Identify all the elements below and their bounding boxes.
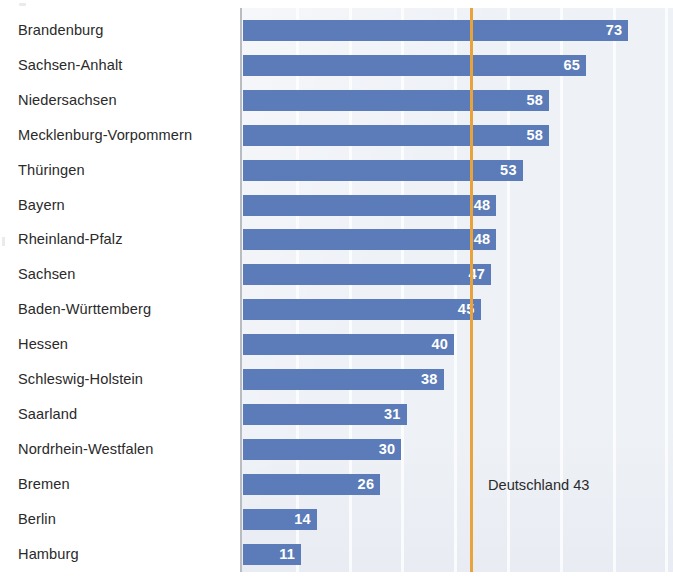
category-label: Bayern (18, 195, 65, 216)
bar-row[interactable]: 40 (240, 334, 673, 355)
bar-row[interactable]: 48 (240, 195, 673, 216)
bar[interactable] (243, 334, 454, 355)
category-label: Mecklenburg-Vorpommern (18, 125, 192, 146)
category-label: Baden-Württemberg (18, 299, 151, 320)
category-label: Niedersachsen (18, 90, 117, 111)
category-label: Bremen (18, 474, 70, 495)
bar-value-label: 58 (519, 125, 543, 146)
category-label: Berlin (18, 509, 56, 530)
bar-row[interactable]: 47 (240, 264, 673, 285)
bar[interactable] (243, 264, 491, 285)
bar[interactable] (243, 195, 496, 216)
bar[interactable] (243, 299, 481, 320)
bar[interactable] (243, 229, 496, 250)
bar-row[interactable]: 38 (240, 369, 673, 390)
category-label: Rheinland-Pfalz (18, 229, 123, 250)
plot-area: 73655858534848474540383130261411 Deutsch… (240, 8, 673, 572)
bar-value-label: 26 (350, 474, 374, 495)
bar-value-label: 73 (598, 20, 622, 41)
category-label: Hessen (18, 334, 68, 355)
bar-row[interactable]: 58 (240, 125, 673, 146)
bar-value-label: 11 (271, 544, 295, 565)
bar[interactable] (243, 55, 586, 76)
bar-value-label: 14 (287, 509, 311, 530)
scan-artifact (19, 3, 26, 6)
category-label: Hamburg (18, 544, 79, 565)
bar-value-label: 58 (519, 90, 543, 111)
bar-row[interactable]: 14 (240, 509, 673, 530)
bar-value-label: 38 (414, 369, 438, 390)
bar-value-label: 40 (424, 334, 448, 355)
category-label: Schleswig-Holstein (18, 369, 143, 390)
bar-row[interactable]: 65 (240, 55, 673, 76)
bar-row[interactable]: 26 (240, 474, 673, 495)
bar[interactable] (243, 160, 523, 181)
bar-value-label: 30 (371, 439, 395, 460)
bar[interactable] (243, 20, 628, 41)
category-label: Sachsen (18, 264, 76, 285)
reference-line-label: Deutschland 43 (488, 477, 589, 493)
bar-value-label: 47 (461, 264, 485, 285)
bar-row[interactable]: 30 (240, 439, 673, 460)
bar-row[interactable]: 48 (240, 229, 673, 250)
bar-chart: BrandenburgSachsen-AnhaltNiedersachsenMe… (0, 0, 673, 580)
category-label: Saarland (18, 404, 77, 425)
category-label: Brandenburg (18, 20, 103, 41)
bar-value-label: 31 (377, 404, 401, 425)
bar-row[interactable]: 73 (240, 20, 673, 41)
category-axis-labels: BrandenburgSachsen-AnhaltNiedersachsenMe… (0, 8, 232, 572)
value-axis-line (240, 8, 242, 572)
bar-row[interactable]: 58 (240, 90, 673, 111)
bar-row[interactable]: 45 (240, 299, 673, 320)
bar-row[interactable]: 53 (240, 160, 673, 181)
category-label: Thüringen (18, 160, 85, 181)
bar-row[interactable]: 11 (240, 544, 673, 565)
bar-row[interactable]: 31 (240, 404, 673, 425)
reference-line-deutschland (470, 8, 473, 572)
category-label: Nordrhein-Westfalen (18, 439, 153, 460)
bar-value-label: 65 (556, 55, 580, 76)
bar[interactable] (243, 90, 549, 111)
category-label: Sachsen-Anhalt (18, 55, 122, 76)
bar-value-label: 53 (493, 160, 517, 181)
bar[interactable] (243, 125, 549, 146)
